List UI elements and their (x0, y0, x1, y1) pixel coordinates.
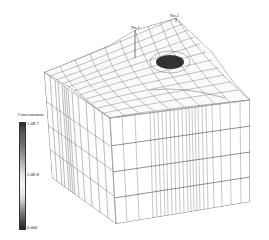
well-no1-label: No.1 (131, 26, 140, 31)
front-face (110, 100, 250, 224)
legend-min-label: 0.000 (27, 226, 37, 231)
mesh-diagram (0, 0, 269, 240)
legend-max-label: 1.0E-7 (27, 122, 39, 127)
legend-mid-label: 5.0E-8 (27, 173, 39, 178)
concentration-plume (156, 55, 184, 69)
legend-colorbar (19, 122, 26, 230)
legend-title: Concentration (18, 113, 44, 118)
well-no2-label: No.2 (170, 14, 179, 19)
